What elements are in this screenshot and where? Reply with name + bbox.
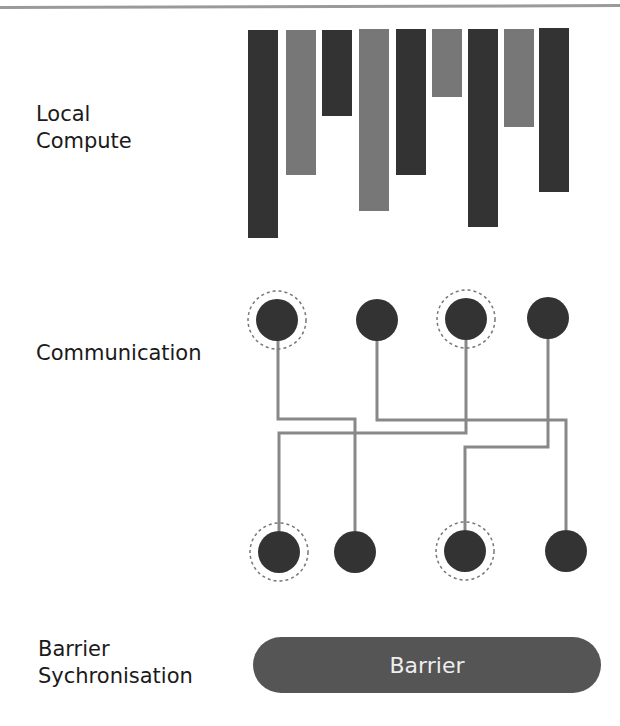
barrier-label: Barrier <box>390 653 465 678</box>
communication-lines <box>278 338 566 531</box>
connection-line-4 <box>465 338 548 530</box>
connection-line-1 <box>278 340 355 531</box>
bottom-node-2 <box>334 531 376 573</box>
compute-bar-2 <box>286 30 316 175</box>
compute-bars <box>248 28 569 238</box>
connection-line-3 <box>279 339 466 531</box>
connection-line-2 <box>377 340 566 530</box>
top-node-4 <box>527 297 569 339</box>
compute-bar-3 <box>322 30 352 116</box>
bottom-node-3 <box>444 530 486 572</box>
barrier-bar: Barrier <box>253 637 601 693</box>
bottom-node-1 <box>258 531 300 573</box>
compute-bar-8 <box>504 29 534 127</box>
top-node-2 <box>356 299 398 341</box>
compute-bar-9 <box>539 28 569 192</box>
compute-bar-5 <box>396 29 426 175</box>
bottom-node-4 <box>545 530 587 572</box>
compute-bar-1 <box>248 30 278 238</box>
communication-nodes <box>248 290 587 581</box>
compute-bar-4 <box>359 29 389 211</box>
compute-bar-7 <box>468 29 498 227</box>
compute-bar-6 <box>432 29 462 97</box>
top-node-3 <box>445 298 487 340</box>
diagram-canvas <box>0 0 620 726</box>
top-node-1 <box>256 299 298 341</box>
